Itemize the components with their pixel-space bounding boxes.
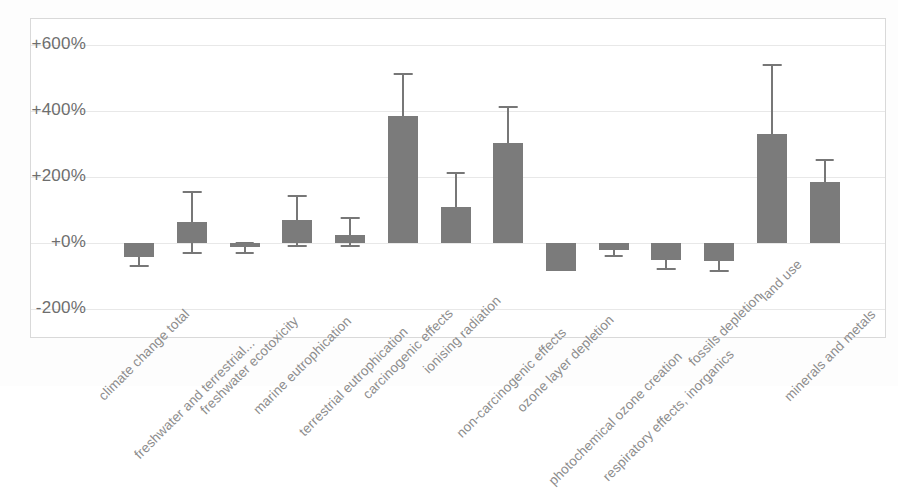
bar-group[interactable] [746, 19, 799, 337]
bar[interactable] [546, 243, 576, 271]
error-bar-cap-upper [394, 73, 413, 75]
bar-group[interactable] [218, 19, 271, 337]
bar[interactable] [810, 182, 840, 243]
error-bar-line [455, 172, 457, 207]
error-bar-line [402, 73, 404, 116]
y-axis-tick-label: +400% [6, 100, 86, 120]
error-bar-line [507, 106, 509, 142]
error-bar-cap-lower [235, 252, 254, 254]
bar-group[interactable] [535, 19, 588, 337]
x-axis-tick-label: respiratory effects, inorganics [599, 347, 736, 484]
bar-group[interactable] [429, 19, 482, 337]
error-bar-cap-upper [815, 159, 834, 161]
bar[interactable] [493, 143, 523, 244]
y-axis-tick-label: +600% [6, 34, 86, 54]
error-bar-cap-upper [499, 106, 518, 108]
bar-group[interactable] [640, 19, 693, 337]
bar-group[interactable] [271, 19, 324, 337]
y-axis-tick-label: +0% [6, 232, 86, 252]
error-bar-cap-lower [288, 245, 307, 247]
x-axis-tick-label: non-carcinogenic effects [454, 325, 570, 441]
bar[interactable] [757, 134, 787, 243]
error-bar-cap-lower [604, 255, 623, 257]
error-bar-cap-upper [763, 64, 782, 66]
y-axis: +600%+400%+200%+0%-200% [0, 0, 86, 386]
bar[interactable] [124, 243, 154, 256]
bar[interactable] [230, 243, 260, 246]
bar-series [31, 19, 885, 337]
error-bar-cap-upper [288, 195, 307, 197]
x-axis-tick-label: terrestrial eutrophication [296, 324, 411, 439]
bar[interactable] [704, 243, 734, 261]
error-bar-cap-upper [183, 191, 202, 193]
error-bar-cap-lower [341, 245, 360, 247]
bar[interactable] [599, 243, 629, 250]
bar[interactable] [177, 222, 207, 243]
error-bar-cap-lower [130, 265, 149, 267]
bar[interactable] [441, 207, 471, 243]
bar-group[interactable] [482, 19, 535, 337]
bar-group[interactable] [113, 19, 166, 337]
bar[interactable] [282, 220, 312, 243]
error-bar-cap-upper [341, 217, 360, 219]
error-bar-cap-lower [183, 252, 202, 254]
error-bar-cap-upper [446, 172, 465, 174]
bar-group[interactable] [324, 19, 377, 337]
bar-group[interactable] [798, 19, 851, 337]
y-axis-tick-label: -200% [6, 298, 86, 318]
error-bar-line [771, 64, 773, 135]
bar[interactable] [335, 235, 365, 243]
bar[interactable] [651, 243, 681, 259]
bar-group[interactable] [377, 19, 430, 337]
plot-area [30, 18, 886, 338]
bar-group[interactable] [166, 19, 219, 337]
y-axis-tick-label: +200% [6, 166, 86, 186]
bar-group[interactable] [587, 19, 640, 337]
bar[interactable] [388, 116, 418, 243]
x-axis-tick-label: photochemical ozone creation [545, 349, 684, 488]
error-bar-cap-lower [657, 268, 676, 270]
bar-group[interactable] [693, 19, 746, 337]
error-bar-cap-lower [710, 270, 729, 272]
x-axis-tick-label: freshwater and terrestrial... [131, 336, 257, 462]
